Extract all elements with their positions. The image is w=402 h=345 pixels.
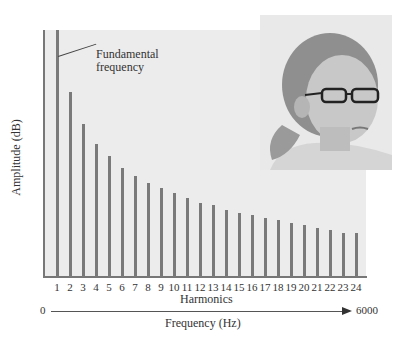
x-axis-label: Harmonics bbox=[180, 292, 233, 307]
harmonic-bar bbox=[199, 203, 202, 277]
harmonic-bar bbox=[95, 144, 98, 277]
x-tick-label: 24 bbox=[348, 281, 364, 293]
harmonic-bar bbox=[69, 92, 72, 277]
harmonic-bar bbox=[82, 124, 85, 277]
harmonic-bar bbox=[225, 210, 228, 277]
harmonic-bar bbox=[277, 220, 280, 277]
harmonic-bar bbox=[147, 183, 150, 277]
y-axis bbox=[43, 30, 45, 278]
portrait-photo bbox=[260, 15, 392, 170]
frequency-start: 0 bbox=[40, 304, 46, 316]
harmonic-bar bbox=[108, 156, 111, 277]
arrow-right-icon bbox=[342, 307, 352, 315]
harmonic-bar bbox=[316, 228, 319, 277]
harmonic-bar bbox=[264, 218, 267, 277]
portrait-illustration bbox=[260, 15, 392, 170]
harmonic-bar bbox=[160, 188, 163, 277]
harmonic-bar bbox=[212, 205, 215, 277]
annotation-line-2: frequency bbox=[96, 61, 159, 74]
harmonic-bar bbox=[186, 198, 189, 277]
harmonic-bar bbox=[173, 193, 176, 277]
fundamental-annotation: Fundamental frequency bbox=[96, 48, 159, 74]
frequency-axis-label: Frequency (Hz) bbox=[165, 316, 241, 331]
harmonic-bar bbox=[329, 230, 332, 277]
harmonic-bar bbox=[251, 215, 254, 277]
harmonic-bar bbox=[238, 213, 241, 277]
harmonic-bar bbox=[290, 223, 293, 277]
frequency-end: 6000 bbox=[356, 304, 378, 316]
harmonic-bar bbox=[121, 168, 124, 277]
harmonic-bar bbox=[134, 176, 137, 277]
y-axis-label: Amplitude (dB) bbox=[9, 108, 24, 208]
harmonic-bar bbox=[56, 30, 59, 277]
harmonic-bar bbox=[342, 233, 345, 277]
harmonic-bar bbox=[303, 225, 306, 277]
frequency-axis-line bbox=[51, 311, 344, 312]
harmonic-bar bbox=[355, 233, 358, 277]
